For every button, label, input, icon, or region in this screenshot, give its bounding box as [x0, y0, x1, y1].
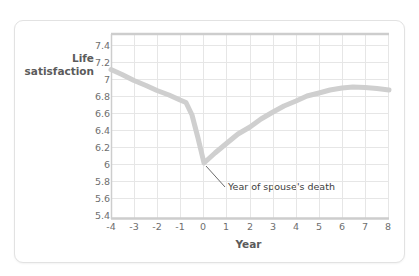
life-satisfaction-chart: Life satisfaction 7.4 7.2 7 6.8 6.6 6.4 …: [0, 0, 419, 276]
plot-area: [0, 0, 419, 276]
annotation-leader-line: [206, 166, 225, 187]
